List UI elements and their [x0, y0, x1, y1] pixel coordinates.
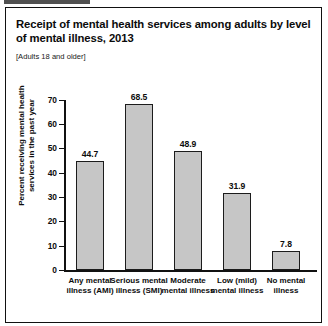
y-tick-mark-10 [59, 246, 64, 247]
y-tick-mark-20 [59, 221, 64, 222]
bar-value-low-mild-mental-illness: 31.9 [215, 181, 259, 191]
x-axis-line [64, 270, 317, 272]
bar-low-mild-mental-illness[interactable] [223, 193, 251, 270]
y-tick-label-10: 10 [35, 241, 57, 251]
y-tick-label-50: 50 [35, 143, 57, 153]
bar-moderate-mental-illness[interactable] [174, 151, 202, 270]
bar-serious-mental-illness[interactable] [125, 104, 153, 270]
y-tick-label-20: 20 [35, 216, 57, 226]
bar-value-moderate-mental-illness: 48.9 [166, 139, 210, 149]
y-tick-mark-50 [59, 148, 64, 149]
y-axis-title: Percent receiving mental health services… [17, 61, 36, 231]
bar-value-no-mental-illness: 7.8 [264, 239, 308, 249]
bar-any-mental-illness[interactable] [76, 161, 104, 270]
figure-container: Receipt of mental health services among … [5, 7, 322, 323]
y-tick-label-40: 40 [35, 168, 57, 178]
x-category-label-no-mental-illness: No mental illness [255, 276, 317, 297]
y-tick-mark-0 [59, 270, 64, 271]
bar-no-mental-illness[interactable] [272, 251, 300, 270]
y-tick-label-70: 70 [35, 95, 57, 105]
bar-value-any-mental-illness: 44.7 [68, 149, 112, 159]
y-tick-mark-60 [59, 124, 64, 125]
y-tick-label-30: 30 [35, 192, 57, 202]
y-tick-label-60: 60 [35, 119, 57, 129]
y-tick-mark-70 [59, 100, 64, 101]
y-axis-title-line-1: Percent receiving mental health [17, 85, 26, 206]
bar-value-serious-mental-illness: 68.5 [117, 92, 161, 102]
bar-chart-plot: Percent receiving mental health services… [6, 8, 323, 324]
y-tick-label-0: 0 [35, 265, 57, 275]
figure-number-clipped [4, 0, 90, 4]
y-tick-mark-30 [59, 197, 64, 198]
y-axis-line [64, 100, 66, 271]
y-tick-mark-40 [59, 173, 64, 174]
